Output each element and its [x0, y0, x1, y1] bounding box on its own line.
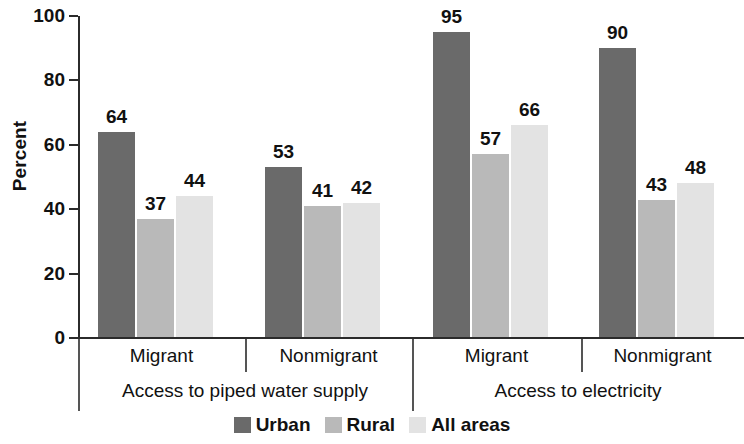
group-label: Access to piped water supply [122, 380, 368, 402]
y-axis-tick-mark [69, 79, 78, 81]
legend-item: Rural [325, 414, 396, 436]
bar-value-label: 66 [519, 99, 540, 121]
chart-legend: UrbanRuralAll areas [0, 414, 744, 436]
category-label: Nonmigrant [279, 345, 377, 367]
bar-value-label: 57 [480, 128, 501, 150]
bar-value-label: 37 [145, 193, 166, 215]
legend-label: Urban [256, 414, 311, 436]
legend-item: Urban [234, 414, 311, 436]
category-label: Nonmigrant [613, 345, 711, 367]
y-axis-tick-label: 100 [17, 5, 65, 27]
group-separator [412, 339, 414, 411]
bar [677, 183, 714, 338]
bar [511, 125, 548, 338]
bar [343, 203, 380, 338]
y-axis-tick-label: 20 [17, 263, 65, 285]
category-axis-left-edge [78, 339, 80, 411]
group-label: Access to electricity [495, 380, 662, 402]
bar-value-label: 53 [273, 141, 294, 163]
legend-swatch-icon [234, 417, 251, 433]
bar [98, 132, 135, 338]
legend-label: All areas [431, 414, 510, 436]
y-axis-title: Percent [9, 106, 31, 206]
bar [265, 167, 302, 338]
y-axis-tick-mark [69, 144, 78, 146]
bar-chart: Percent 020406080100 6437445341429557669… [0, 0, 744, 444]
y-axis-tick-label: 40 [17, 198, 65, 220]
category-label: Migrant [465, 345, 528, 367]
category-separator [581, 339, 583, 372]
y-axis-tick-mark [69, 208, 78, 210]
bar-value-label: 43 [646, 174, 667, 196]
bar-value-label: 48 [685, 157, 706, 179]
bar [472, 154, 509, 338]
category-label: Migrant [130, 345, 193, 367]
y-axis-tick-label: 60 [17, 134, 65, 156]
bar [176, 196, 213, 338]
category-separator [245, 339, 247, 372]
legend-swatch-icon [325, 417, 342, 433]
legend-label: Rural [347, 414, 396, 436]
y-axis-tick-mark [69, 273, 78, 275]
bar-value-label: 90 [607, 22, 628, 44]
legend-item: All areas [409, 414, 510, 436]
bar-value-label: 95 [441, 6, 462, 28]
legend-swatch-icon [409, 417, 426, 433]
bar [137, 219, 174, 338]
y-axis-tick-mark [69, 15, 78, 17]
bar-value-label: 41 [312, 180, 333, 202]
bar [433, 32, 470, 338]
y-axis-tick-label: 80 [17, 69, 65, 91]
bar-value-label: 64 [106, 106, 127, 128]
plot-area: 643744534142955766904348 [78, 16, 744, 338]
bar [638, 200, 675, 338]
bar [599, 48, 636, 338]
bar-value-label: 42 [351, 177, 372, 199]
bar [304, 206, 341, 338]
bar-value-label: 44 [184, 170, 205, 192]
